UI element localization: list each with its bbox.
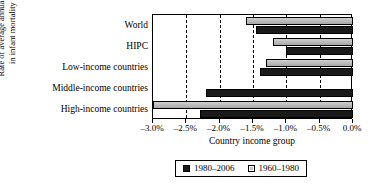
bar-group: [153, 99, 351, 120]
bar-group: [153, 57, 351, 78]
bar-dark: [206, 89, 353, 97]
x-tick-label-group: –3.0%–2.5%–2.0%–1.5%–1.0%–0.5%0.0%: [140, 123, 364, 135]
bar-group: [153, 78, 351, 99]
category-label: Middle-income countries: [52, 82, 148, 94]
legend-swatch-icon: [183, 165, 190, 172]
legend-label: 1960–1980: [259, 163, 300, 173]
legend-item: 1960–1980: [248, 163, 300, 173]
bar-light: [273, 38, 353, 46]
x-tick-label: –1.5%: [240, 123, 263, 134]
y-axis-title-line-2: in infant mortality rates: [7, 0, 18, 78]
bar-dark: [256, 26, 353, 34]
chart-legend: 1980–20061960–1980: [175, 160, 307, 177]
bar-dark: [260, 68, 353, 76]
legend-item: 1980–2006: [183, 163, 235, 173]
legend-swatch-icon: [248, 165, 255, 172]
x-tick-label: –2.0%: [207, 123, 230, 134]
category-label-group: WorldHIPCLow-income countriesMiddle-inco…: [18, 14, 150, 119]
chart-figure: Rate of average annual decline in infant…: [0, 0, 372, 192]
legend-label: 1980–2006: [194, 163, 235, 173]
bar-light: [266, 59, 353, 67]
bar-dark: [200, 110, 353, 118]
category-label: HIPC: [126, 40, 148, 52]
x-tick-label: 0.0%: [343, 123, 362, 134]
bar-group: [153, 36, 351, 57]
category-label: World: [124, 19, 148, 31]
x-axis-title: Country income group: [152, 136, 352, 146]
bar-dark: [286, 47, 353, 55]
plot-area: [152, 14, 352, 119]
x-tick-label: –3.0%: [140, 123, 163, 134]
x-tick-label: –0.5%: [307, 123, 330, 134]
category-label: Low-income countries: [62, 61, 148, 73]
bar-group: [153, 15, 351, 36]
x-tick-label: –1.0%: [274, 123, 297, 134]
y-axis-title-line-1: Rate of average annual decline: [0, 0, 7, 78]
bar-light: [246, 17, 353, 25]
bar-light: [153, 101, 353, 109]
category-label: High-income countries: [61, 103, 148, 115]
x-tick-label: –2.5%: [174, 123, 197, 134]
